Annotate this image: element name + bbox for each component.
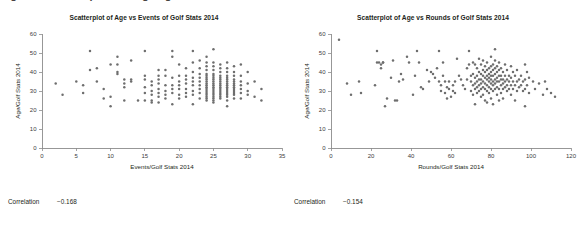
data-point [524, 88, 527, 91]
data-point [382, 61, 385, 64]
x-tick-label: 30 [244, 153, 251, 159]
data-point [192, 80, 195, 83]
data-point [438, 80, 441, 83]
y-tick-label: 10 [30, 126, 37, 132]
data-point [192, 94, 195, 97]
data-point [178, 94, 181, 97]
data-point [198, 92, 201, 95]
data-point [378, 61, 381, 64]
data-point [396, 99, 399, 102]
data-point [512, 88, 515, 91]
data-point [482, 69, 485, 72]
data-point [496, 86, 499, 89]
data-point [516, 90, 519, 93]
data-point [144, 99, 147, 102]
data-point [205, 61, 208, 64]
data-point [376, 50, 379, 53]
data-point [502, 71, 505, 74]
data-point [123, 82, 126, 85]
data-point [490, 88, 493, 91]
data-point [504, 86, 507, 89]
correlation-value: −0.154 [343, 198, 363, 205]
data-point [508, 80, 511, 83]
data-point [482, 80, 485, 83]
data-point [520, 75, 523, 78]
data-point [150, 101, 153, 104]
data-point [61, 94, 64, 97]
data-point [358, 80, 361, 83]
data-point [116, 73, 119, 76]
data-point [480, 73, 483, 76]
data-point [482, 59, 485, 62]
data-point [500, 75, 503, 78]
data-point [520, 84, 523, 87]
data-point [171, 84, 174, 87]
data-point [374, 84, 377, 87]
data-point [205, 99, 208, 102]
data-point [192, 90, 195, 93]
data-point [480, 88, 483, 91]
chart-title: Scatterplot of Age vs Events of Golf Sta… [0, 14, 288, 21]
data-point [498, 88, 501, 91]
chart-panel-age-vs-events: Scatterplot of Age vs Events of Golf Sta… [0, 0, 288, 227]
data-point [144, 50, 147, 53]
data-point [474, 88, 477, 91]
data-point [402, 78, 405, 81]
data-point [412, 94, 415, 97]
data-point [219, 97, 222, 100]
data-point [416, 50, 419, 53]
data-point [522, 90, 525, 93]
data-point [205, 65, 208, 68]
data-point [468, 50, 471, 53]
data-point [446, 97, 449, 100]
data-point [518, 86, 521, 89]
data-point [233, 97, 236, 100]
data-point [192, 71, 195, 74]
data-point [476, 86, 479, 89]
data-point [130, 59, 133, 62]
data-point [506, 84, 509, 87]
data-point [486, 78, 489, 81]
data-point [212, 65, 215, 68]
data-point [390, 76, 393, 79]
data-point [510, 65, 513, 68]
data-point [157, 75, 160, 78]
x-axis-title: Rounds/Golf Stats 2014 [418, 163, 484, 170]
data-point [492, 63, 495, 66]
data-point [116, 56, 119, 59]
y-axis-title: Age/Golf Stats 2014 [303, 63, 310, 119]
data-point [488, 86, 491, 89]
data-point [550, 92, 553, 95]
x-tick-label: 15 [142, 153, 149, 159]
data-point [476, 67, 479, 70]
data-point [422, 88, 425, 91]
data-point [482, 86, 485, 89]
data-point [472, 84, 475, 87]
data-point [432, 73, 435, 76]
data-point [488, 67, 491, 70]
data-point [212, 69, 215, 72]
data-point [150, 94, 153, 97]
data-point [486, 101, 489, 104]
data-point [178, 84, 181, 87]
data-point [157, 78, 160, 81]
data-point [494, 67, 497, 70]
y-tick-label: 0 [322, 145, 326, 151]
data-point [496, 94, 499, 97]
y-axis-group-0: 0102030405060 [30, 31, 42, 151]
data-point [524, 105, 527, 108]
x-axis-group-0: 05101520253035 [40, 148, 286, 159]
data-point [554, 95, 557, 98]
data-point [464, 88, 467, 91]
data-point [426, 69, 429, 72]
data-point [233, 94, 236, 97]
data-point [436, 67, 439, 70]
data-point [233, 71, 236, 74]
data-point [494, 88, 497, 91]
x-tick-label: 40 [408, 153, 415, 159]
data-point [504, 80, 507, 83]
plot-area: 0102030405060 020406080100120 Rounds/Gol… [289, 26, 577, 176]
data-point [490, 97, 493, 100]
data-point [542, 94, 545, 97]
data-point [524, 63, 527, 66]
